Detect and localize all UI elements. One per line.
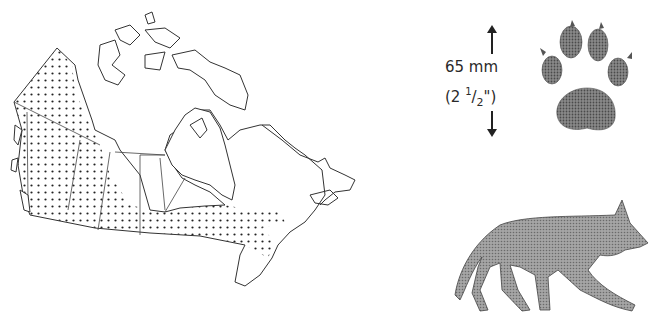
labrador-newfoundland bbox=[262, 125, 355, 205]
arrow-head-up-icon bbox=[486, 25, 498, 33]
range-area bbox=[14, 48, 285, 258]
arctic-islands bbox=[98, 12, 248, 138]
coyote-silhouette-icon bbox=[440, 195, 650, 315]
track-size-scale: 65 mm (2 1/2") bbox=[445, 25, 515, 135]
fraction-numerator: 1 bbox=[465, 86, 471, 97]
imperial-suffix: ") bbox=[484, 88, 497, 106]
arrow-head-down-icon bbox=[486, 129, 498, 137]
fraction-denominator: 2 bbox=[477, 96, 484, 109]
track-length-metric: 65 mm bbox=[445, 58, 498, 76]
imperial-prefix: (2 bbox=[445, 88, 465, 106]
canada-range-map bbox=[0, 0, 380, 319]
track-length-imperial: (2 1/2") bbox=[445, 87, 496, 109]
paw-print-icon bbox=[535, 20, 645, 140]
